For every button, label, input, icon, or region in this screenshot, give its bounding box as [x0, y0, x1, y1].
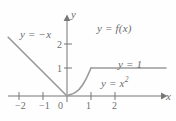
- x-axis-name-label: x: [166, 91, 171, 102]
- branch-x-squared: [67, 68, 91, 96]
- y-tick-label-2: 2: [57, 40, 62, 50]
- x-tick-label--1: −1: [39, 101, 50, 111]
- origin-label: 0: [58, 101, 63, 111]
- label-x-squared-exponent: 2: [125, 75, 129, 84]
- x-tick-label-2: 2: [112, 101, 117, 111]
- label-y-equals-negative-x: y = −x: [20, 29, 51, 40]
- label-y-equals-one: y = 1: [118, 59, 142, 70]
- label-y-equals-f-of-x: y = f(x): [97, 23, 132, 34]
- x-tick-label--2: −2: [15, 101, 26, 111]
- function-graph-figure: y = f(x) y = −x y = 1 y = x2 y x −2 −1 0…: [0, 0, 176, 121]
- y-tick-label-1: 1: [57, 64, 62, 74]
- y-axis-name-label: y: [71, 9, 76, 20]
- label-y-equals-x-squared: y = x2: [101, 76, 129, 89]
- x-tick-label-1: 1: [86, 101, 91, 111]
- y-axis-arrow-icon: [64, 15, 71, 22]
- label-x-squared-base: y = x: [101, 77, 125, 89]
